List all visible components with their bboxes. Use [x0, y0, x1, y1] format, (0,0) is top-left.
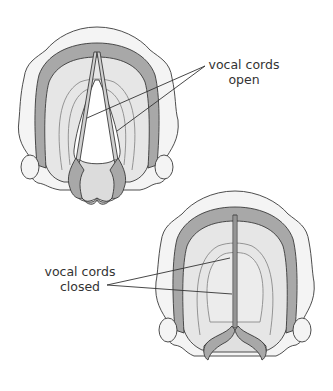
- label-open-line1: vocal cords: [208, 57, 280, 72]
- label-vocal-cords-open: vocal cords open: [208, 57, 280, 87]
- label-open-line2: open: [208, 72, 280, 87]
- larynx-diagram: [0, 0, 333, 391]
- label-closed-line1: vocal cords: [44, 264, 116, 279]
- label-closed-line2: closed: [44, 279, 116, 294]
- label-vocal-cords-closed: vocal cords closed: [44, 264, 116, 294]
- larynx-open-figure: [18, 27, 178, 204]
- larynx-closed-figure: [156, 191, 315, 360]
